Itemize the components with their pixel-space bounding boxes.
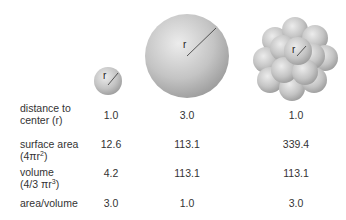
value: 339.4 <box>283 138 309 150</box>
small-sphere: r <box>94 67 122 95</box>
value: 1.0 <box>289 109 304 121</box>
value: 113.1 <box>174 167 200 179</box>
sphere-cluster: r <box>253 17 338 101</box>
row-label-area-volume: area/volume <box>20 197 78 209</box>
value: 1.0 <box>104 109 119 121</box>
row-label-distance: distance tocenter (r) <box>20 102 71 126</box>
row-label-surface-area: surface area (4πr2) <box>20 138 78 162</box>
value: 3.0 <box>289 197 304 209</box>
value: 4.2 <box>104 167 119 179</box>
large-sphere: r <box>145 14 229 98</box>
value: 12.6 <box>101 138 121 150</box>
value: 3.0 <box>104 197 119 209</box>
value: 113.1 <box>174 138 200 150</box>
value: 113.1 <box>283 167 309 179</box>
value: 1.0 <box>180 197 195 209</box>
row-label-volume: volume (4/3 πr3) <box>20 166 59 190</box>
value: 3.0 <box>180 109 195 121</box>
